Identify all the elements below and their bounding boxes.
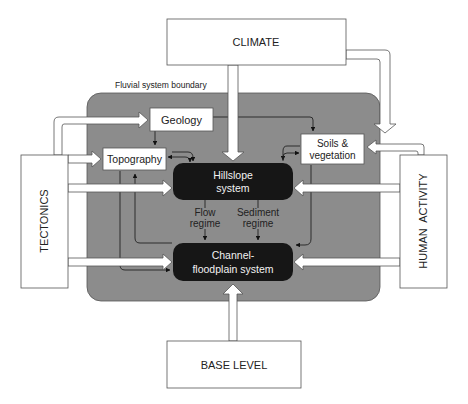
- hillslope-label-line1: Hillslope: [213, 169, 253, 181]
- base-level-box: BASE LEVEL: [167, 341, 301, 388]
- soils-vegetation-box: Soils & vegetation: [301, 134, 364, 164]
- tectonics-box: TECTONICS: [21, 155, 68, 288]
- fluvial-system-diagram: Fluvial system boundary: [0, 0, 468, 404]
- human-to-soils-arrow: [367, 140, 424, 155]
- baselevel-to-channel-arrow: [223, 284, 243, 341]
- human-activity-label: HUMAN ACTIVITY: [417, 173, 429, 269]
- climate-box: CLIMATE: [167, 19, 346, 65]
- hillslope-system-box: Hillslope system: [173, 163, 293, 200]
- geology-box: Geology: [150, 108, 213, 131]
- soils-label-line2: vegetation: [309, 150, 355, 161]
- flow-label-line1: Flow: [194, 207, 216, 218]
- channel-floodplain-system-box: Channel- floodplain system: [173, 243, 293, 281]
- sediment-label-line2: regime: [243, 218, 274, 229]
- soils-label-line1: Soils &: [317, 138, 348, 149]
- boundary-label: Fluvial system boundary: [115, 80, 207, 90]
- hillslope-label-line2: system: [216, 182, 250, 194]
- flow-label-line2: regime: [190, 218, 221, 229]
- geology-label: Geology: [161, 114, 202, 126]
- topography-label: Topography: [107, 153, 163, 165]
- sediment-regime-label: Sediment regime: [237, 207, 279, 229]
- channel-label-line2: floodplain system: [192, 263, 273, 275]
- tectonics-label: TECTONICS: [38, 189, 50, 252]
- channel-label-line1: Channel-: [212, 249, 255, 261]
- sediment-label-line1: Sediment: [237, 207, 279, 218]
- human-activity-box: HUMAN ACTIVITY: [400, 155, 447, 288]
- climate-label: CLIMATE: [233, 36, 280, 48]
- base-level-label: BASE LEVEL: [201, 359, 268, 371]
- topography-box: Topography: [103, 148, 166, 170]
